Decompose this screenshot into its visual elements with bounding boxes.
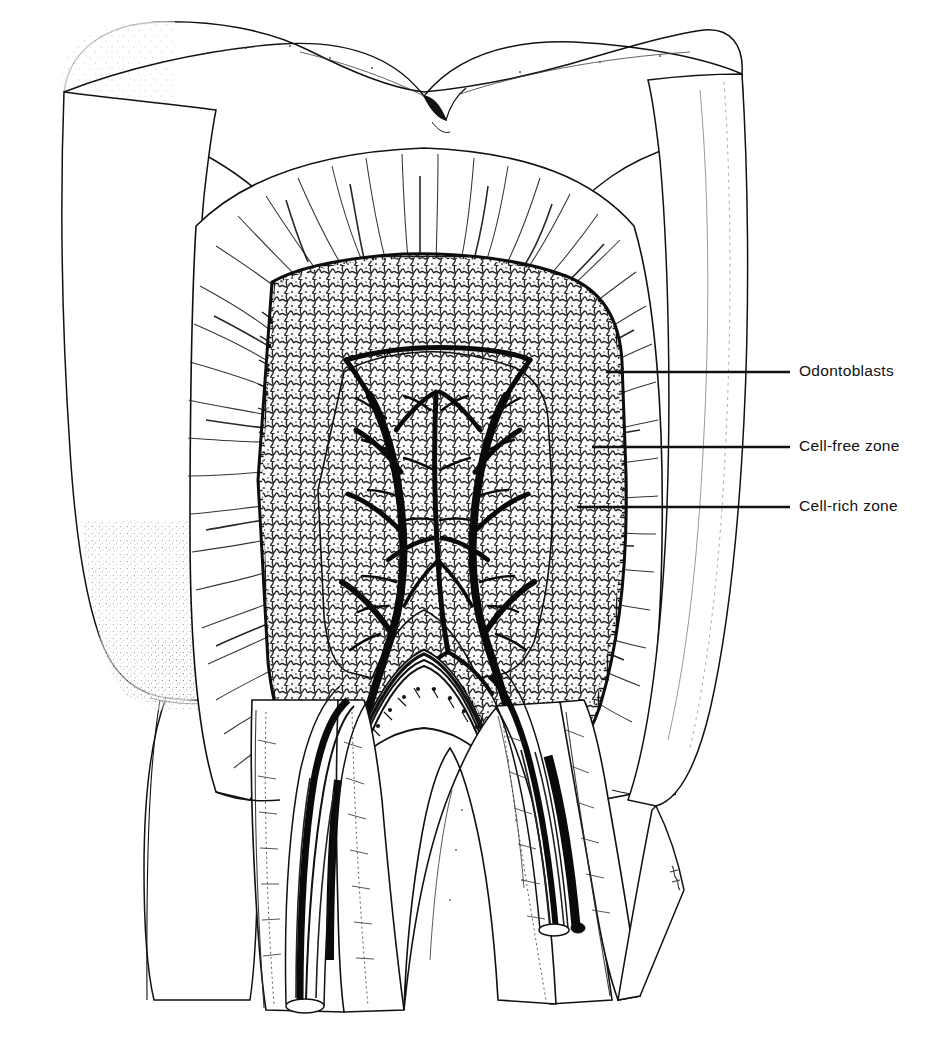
label-cell-rich-zone: Cell-rich zone [799, 497, 898, 515]
root-left [251, 700, 404, 1012]
tooth-cross-section-illustration [0, 0, 950, 1042]
label-cell-free-zone: Cell-free zone [799, 437, 900, 455]
label-odontoblasts: Odontoblasts [799, 362, 894, 380]
anatomy-figure: Odontoblasts Cell-free zone Cell-rich zo… [0, 0, 950, 1042]
